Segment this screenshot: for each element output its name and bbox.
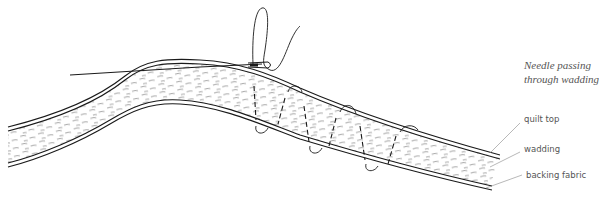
thread (253, 8, 300, 71)
figure-caption: Needle passing through wadding (524, 58, 599, 86)
label-wadding: wadding (524, 144, 560, 154)
caption-line-2: through wadding (524, 72, 599, 86)
label-quilt-top: quilt top (524, 114, 559, 124)
caption-line-1: Needle passing (524, 58, 599, 72)
label-backing-fabric: backing fabric (526, 170, 586, 180)
